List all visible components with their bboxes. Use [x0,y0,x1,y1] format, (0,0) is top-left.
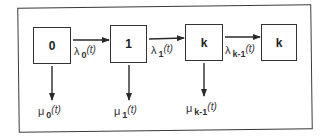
state-box-k: k [185,24,223,61]
state-label: k [276,36,283,50]
lambda-label-1: λ1(t) [151,45,173,56]
state-box-1: 1 [110,25,147,63]
state-box-k-right: k [261,24,297,61]
mu-label-1: μ1(t) [114,106,137,117]
lambda-label-0: λ0(t) [74,46,96,57]
state-label: k [201,36,208,50]
diagram-canvas: 0 1 k k λ0(t) λ1(t) λk-1(t) μ0(t) μ1(t) … [0,0,330,138]
state-label: 1 [125,37,132,51]
lambda-label-k-1: λk-1(t) [225,45,255,56]
mu-label-0: μ0(t) [38,106,61,117]
state-box-0: 0 [33,27,71,64]
state-label: 0 [49,39,56,53]
mu-label-k-1: μk-1(t) [186,103,217,114]
